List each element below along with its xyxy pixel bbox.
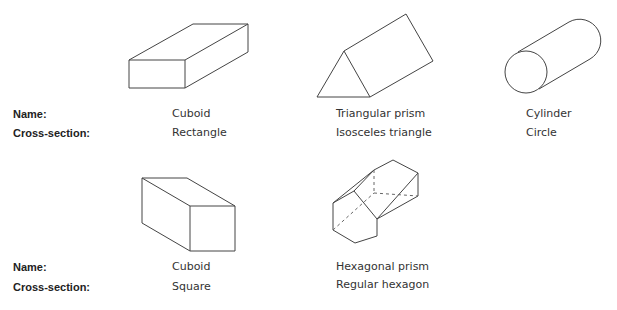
row1-shape3-cross-section: Circle	[526, 126, 557, 139]
row1-shape2-cross-section: Isosceles triangle	[336, 126, 432, 139]
row1-shape3-name: Cylinder	[526, 107, 572, 120]
row1-name-label: Name:	[13, 108, 47, 120]
row1-shape2-name: Triangular prism	[336, 107, 425, 120]
row2-name-label: Name:	[13, 261, 47, 273]
row2-cross-section-label: Cross-section:	[13, 281, 90, 293]
row2-shape1-name: Cuboid	[172, 260, 210, 273]
row2-shape2-name: Hexagonal prism	[336, 260, 429, 273]
row1-cross-section-label: Cross-section:	[13, 127, 90, 139]
hexagonal-prism-figure	[333, 160, 418, 243]
row1-shape1-name: Cuboid	[172, 107, 210, 120]
shapes-canvas	[0, 0, 617, 310]
cuboid-square-figure	[142, 178, 235, 251]
row1-shape1-cross-section: Rectangle	[172, 126, 227, 139]
cylinder-figure	[505, 19, 601, 93]
triangular-prism-figure	[317, 14, 433, 97]
row2-shape2-cross-section: Regular hexagon	[336, 278, 429, 291]
row2-shape1-cross-section: Square	[172, 280, 211, 293]
cuboid-rectangle-figure	[129, 24, 248, 88]
